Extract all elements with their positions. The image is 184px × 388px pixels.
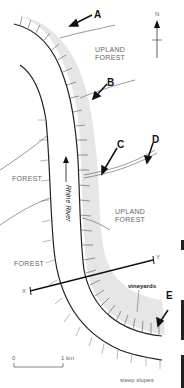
label-steep-slopes: steep slopes (120, 377, 154, 383)
scale-unit-label: 1 km (61, 355, 74, 361)
label-forest-bottom-left: FOREST (14, 260, 44, 268)
marker-e: E (166, 290, 173, 301)
scale-zero-label: 0 (12, 355, 15, 361)
label-upland-forest-top: UPLAND FOREST (95, 46, 125, 62)
label-upland-forest-mid: UPLAND FOREST (115, 208, 145, 224)
page-edge (181, 355, 184, 388)
marker-c: C (117, 139, 124, 150)
map-canvas (0, 0, 184, 388)
transect-y-label: Y (156, 254, 160, 260)
label-vineyards: vineyards (128, 283, 156, 289)
marker-d: D (152, 134, 159, 145)
marker-b: B (107, 77, 114, 88)
compass-n-label: N (155, 11, 159, 17)
page-edge (181, 240, 184, 250)
north-arrow (152, 20, 162, 58)
page-edge (181, 300, 184, 340)
tributary-valleys (0, 25, 157, 230)
label-rhine-river: Rhine River (65, 185, 72, 222)
transect-x-label: X (22, 288, 26, 294)
scale-bar (14, 363, 63, 367)
river-flow-arrow (63, 156, 69, 182)
marker-a: A (94, 9, 101, 20)
label-forest-left: FOREST (12, 175, 42, 183)
